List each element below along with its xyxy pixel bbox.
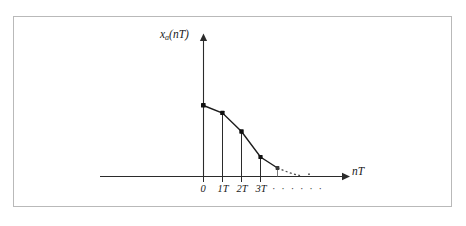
x-tick-label-3: 3T [251, 183, 271, 194]
y-axis-label: xa(nT) [160, 29, 189, 42]
sample-marker-0 [201, 103, 206, 108]
sample-marker-2 [239, 129, 243, 133]
x-axis-label: nT [352, 166, 364, 178]
figure-root: xa(nT) nT 0 1T 2T 3T · · · · · · [0, 0, 466, 226]
envelope-solid [204, 106, 278, 169]
axis-tail-dot-0 [308, 173, 310, 175]
sample-marker-3 [258, 155, 262, 159]
y-axis-label-argument: (nT) [169, 28, 189, 40]
sample-marker-1 [220, 111, 224, 115]
envelope-dotted-tail [278, 168, 301, 176]
x-tick-label-2: 2T [232, 183, 252, 194]
x-axis-arrowhead [342, 173, 350, 180]
sample-marker-4 [276, 166, 280, 170]
x-tick-label-0: 0 [196, 183, 210, 194]
y-axis-arrowhead [200, 34, 207, 42]
x-tick-label-1: 1T [213, 183, 233, 194]
x-axis-ellipsis: · · · · · · [272, 183, 316, 194]
